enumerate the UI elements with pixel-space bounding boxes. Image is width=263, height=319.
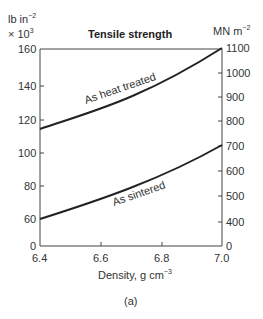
x-tick: 7.0 <box>214 252 229 264</box>
x-tick: 6.4 <box>32 252 47 264</box>
y-right-tick: 700 <box>226 140 244 152</box>
y-left-tick: 80 <box>24 180 36 192</box>
y-right-tick: 1000 <box>226 67 250 79</box>
y-left-tick: 100 <box>18 147 36 159</box>
y-left-tick: 0 <box>30 240 36 252</box>
figure-caption: (a) <box>124 295 137 307</box>
y-left-tick: 140 <box>18 80 36 92</box>
y-left-tick: 60 <box>24 213 36 225</box>
y-right-tick: 500 <box>226 190 244 202</box>
y-right-tick: 600 <box>226 165 244 177</box>
x-tick: 6.6 <box>93 252 108 264</box>
x-tick: 6.8 <box>154 252 169 264</box>
y-right-tick: 0 <box>226 240 232 252</box>
y-left-tick: 160 <box>18 43 36 55</box>
curve-label-sintered: As sintered <box>111 179 167 208</box>
x-axis-label-sup: −3 <box>164 268 172 275</box>
y-right-tick: 800 <box>226 115 244 127</box>
y-right-tick: 900 <box>226 91 244 103</box>
x-axis-label-text: Density, g cm <box>98 269 164 281</box>
x-axis-label: Density, g cm−3 <box>98 268 172 281</box>
y-left-tick: 120 <box>18 114 36 126</box>
curve-sintered <box>40 145 222 219</box>
y-right-tick: 1100 <box>226 42 250 54</box>
y-right-tick: 400 <box>226 216 244 228</box>
